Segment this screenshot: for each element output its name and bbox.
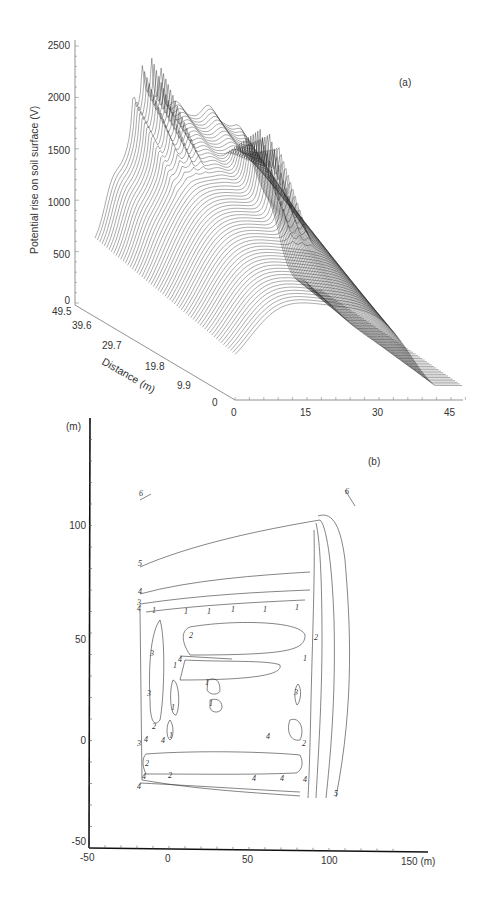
contour-label: 2 [314, 633, 318, 642]
contour-label: 2 [302, 739, 306, 748]
depth-tick-0: 0 [212, 397, 218, 408]
y-tick-50: 50 [46, 634, 86, 645]
contour-label: 4 [137, 604, 141, 613]
z-axis-title: Potential rise on soil surface (V) [28, 106, 40, 254]
contour-label: 2 [189, 631, 193, 640]
y-tick-100: 100 [46, 520, 86, 531]
depth-tick-29-7: 29.7 [102, 340, 121, 351]
contour-label: 6 [139, 489, 143, 498]
panel-a-label: (a) [399, 77, 411, 88]
contour-label: 1 [209, 699, 213, 708]
contour-label: 4 [161, 736, 165, 745]
y-tick-minus-50: -50 [46, 836, 86, 847]
depth-tick-39-6: 39.6 [72, 320, 91, 331]
panel-b-label: (b) [368, 456, 380, 467]
contour-label: 1 [152, 606, 156, 615]
contour-label: 1 [207, 607, 211, 616]
contour-label: 2 [168, 771, 172, 780]
contour-label: 6 [345, 487, 349, 496]
surface-wireframe [0, 0, 482, 425]
contour-label: 4 [252, 774, 256, 783]
contour-label: 5 [334, 789, 338, 798]
contour-label: 4 [137, 782, 141, 791]
contour-label: 1 [169, 731, 173, 740]
panel-b-contour-plot: (m) 100 50 0 -50 -50 0 50 100 150 (m) (b… [0, 415, 482, 914]
z-tick-1000: 1000 [30, 197, 70, 208]
contour-label: 3 [294, 688, 298, 697]
x-tick-150: 150 (m) [401, 856, 435, 867]
contour-label: 5 [138, 559, 142, 568]
contour-label: 4 [178, 655, 182, 664]
x-tick-50: 50 [242, 854, 253, 865]
depth-tick-9-9: 9.9 [177, 380, 191, 391]
contour-label: 1 [173, 661, 177, 670]
z-tick-500: 500 [30, 249, 70, 260]
contour-label: 4 [280, 774, 284, 783]
x-tick-0: 0 [165, 853, 171, 864]
contour-label: 4 [144, 735, 148, 744]
contour-label: 1 [263, 605, 267, 614]
z-tick-0: 0 [30, 295, 70, 306]
contour-label: 2 [152, 722, 156, 731]
contour-label: 1 [295, 603, 299, 612]
contour-label: 3 [150, 649, 154, 658]
contour-label: 3 [147, 689, 151, 698]
z-tick-2500: 2500 [30, 40, 70, 51]
z-tick-1500: 1500 [30, 145, 70, 156]
contour-label: 4 [142, 772, 146, 781]
contour-label: 1 [303, 654, 307, 663]
x-tick-100: 100 [321, 855, 338, 866]
y-unit-label: (m) [66, 421, 81, 432]
z-tick-2000: 2000 [30, 92, 70, 103]
contour-label: 1 [205, 678, 209, 687]
contour-label: 4 [303, 775, 307, 784]
y-tick-0: 0 [46, 735, 86, 746]
depth-tick-19-8: 19.8 [145, 361, 164, 372]
contour-label: 3 [137, 739, 141, 748]
contour-label: 1 [184, 607, 188, 616]
contour-label: 1 [231, 605, 235, 614]
panel-a-surface-plot: Potential rise on soil surface (V) 2500 … [0, 0, 482, 425]
depth-tick-49-5: 49.5 [52, 306, 71, 317]
x-tick-minus-50: -50 [80, 852, 94, 863]
contour-label: 1 [171, 703, 175, 712]
contour-label: 4 [138, 587, 142, 596]
contour-label: 2 [145, 759, 149, 768]
contour-label: 4 [266, 732, 270, 741]
